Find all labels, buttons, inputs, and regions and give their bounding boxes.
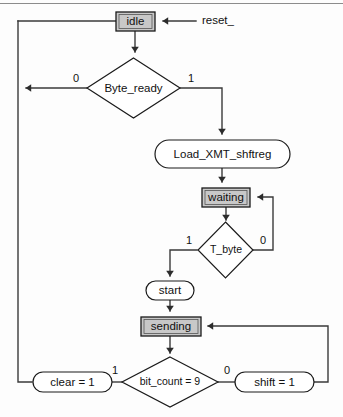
edge-t-byte-true — [170, 250, 197, 276]
action-load-xmt-shftreg-label: Load_XMT_shftreg — [174, 148, 272, 160]
decision-node-bit-count[interactable]: bit_count = 9 — [122, 357, 218, 407]
decision-node-t-byte[interactable]: T_byte — [198, 222, 253, 278]
state-idle-label: idle — [127, 15, 145, 27]
action-node-shift[interactable]: shift = 1 — [235, 372, 314, 392]
branch-label-t-byte-false: 0 — [260, 234, 266, 246]
branch-label-bit-count-true: 1 — [112, 364, 118, 376]
state-waiting-label: waiting — [207, 191, 244, 203]
asm-flowchart-diagram: idle reset_ Byte_ready 0 1 Load_XMT_shft… — [0, 0, 343, 417]
state-sending-label: sending — [151, 320, 191, 332]
branch-label-t-byte-true: 1 — [186, 234, 192, 246]
input-label-reset: reset_ — [202, 14, 235, 26]
edge-left-return-bus — [18, 21, 32, 382]
branch-label-bit-count-false: 0 — [224, 364, 230, 376]
state-node-waiting[interactable]: waiting — [202, 188, 250, 207]
action-node-load-xmt-shftreg[interactable]: Load_XMT_shftreg — [155, 140, 290, 168]
state-node-idle[interactable]: idle — [116, 12, 155, 31]
decision-node-byte-ready[interactable]: Byte_ready — [87, 58, 180, 118]
action-start-label: start — [159, 284, 182, 296]
decision-t-byte-label: T_byte — [210, 243, 242, 255]
edge-byte-ready-true — [180, 88, 222, 134]
action-node-start[interactable]: start — [146, 281, 194, 300]
action-clear-label: clear = 1 — [50, 376, 94, 388]
state-node-sending[interactable]: sending — [141, 317, 201, 336]
action-node-clear[interactable]: clear = 1 — [33, 372, 112, 392]
decision-byte-ready-label: Byte_ready — [104, 82, 162, 94]
branch-label-byte-ready-true: 1 — [188, 72, 194, 84]
action-shift-label: shift = 1 — [254, 376, 295, 388]
branch-label-byte-ready-false: 0 — [73, 72, 79, 84]
decision-bit-count-label: bit_count = 9 — [140, 375, 201, 387]
flowchart-canvas: idle reset_ Byte_ready 0 1 Load_XMT_shft… — [0, 0, 343, 417]
